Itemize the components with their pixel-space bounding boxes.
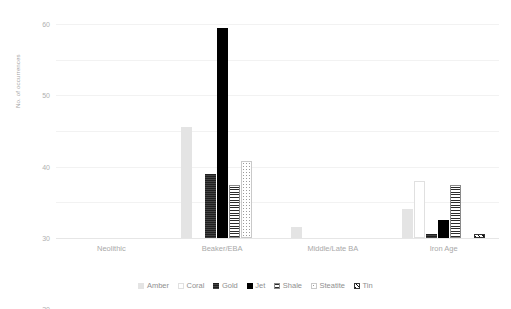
legend-item-jet[interactable]: Jet (247, 281, 266, 290)
bar-slot-gold (94, 24, 105, 238)
y-axis-title: No. of occurrences (14, 8, 21, 108)
bar-amber-iron-age[interactable] (402, 209, 413, 238)
bar-jet-beaker-eba[interactable] (217, 28, 228, 238)
bar-groups (56, 24, 499, 238)
legend-label: Steatite (320, 281, 345, 290)
bar-slot-amber (70, 24, 81, 238)
legend-swatch-shale-icon (274, 283, 280, 289)
bar-slot-steatite (462, 24, 473, 238)
x-tick-label: Middle/Late BA (278, 244, 389, 253)
bar-group (167, 24, 278, 238)
bar-slot-jet (327, 24, 338, 238)
legend-item-tin[interactable]: Tin (354, 281, 373, 290)
y-tick-label-60: 60 (42, 21, 50, 28)
bar-tin-iron-age[interactable] (474, 234, 485, 238)
plot-area: 0102030405060 (56, 24, 499, 238)
bar-coral-iron-age[interactable] (414, 181, 425, 238)
bar-slot-jet (438, 24, 449, 238)
bar-slot-steatite (130, 24, 141, 238)
x-tick-label: Neolithic (56, 244, 167, 253)
legend-label: Gold (222, 281, 238, 290)
bar-slot-amber (181, 24, 192, 238)
bar-jet-iron-age[interactable] (438, 220, 449, 238)
bar-shale-iron-age[interactable] (450, 185, 461, 239)
gridline-0: 0 (56, 238, 499, 239)
x-tick-label: Iron Age (388, 244, 499, 253)
bar-slot-jet (106, 24, 117, 238)
legend-item-amber[interactable]: Amber (138, 281, 169, 290)
y-tick-label-30: 30 (42, 235, 50, 242)
legend-item-coral[interactable]: Coral (178, 281, 204, 290)
legend-swatch-gold-icon (213, 283, 219, 289)
bar-chart: No. of occurrences 0102030405060 Neolith… (0, 0, 511, 309)
legend-item-steatite[interactable]: Steatite (311, 281, 345, 290)
bar-slot-shale (118, 24, 129, 238)
bar-slot-tin (363, 24, 374, 238)
bar-slot-tin (142, 24, 153, 238)
chart-legend: AmberCoralGoldJetShaleSteatiteTin (0, 281, 511, 290)
bar-slot-tin (253, 24, 264, 238)
legend-label: Amber (147, 281, 169, 290)
bar-slot-shale (229, 24, 240, 238)
x-axis-labels: NeolithicBeaker/EBAMiddle/Late BAIron Ag… (56, 244, 499, 253)
bar-slot-tin (474, 24, 485, 238)
legend-swatch-steatite-icon (311, 283, 317, 289)
bar-slot-shale (450, 24, 461, 238)
bar-slot-coral (414, 24, 425, 238)
bar-slot-amber (402, 24, 413, 238)
bar-shale-beaker-eba[interactable] (229, 185, 240, 239)
y-tick-label-50: 50 (42, 92, 50, 99)
bar-group (278, 24, 389, 238)
legend-label: Coral (187, 281, 205, 290)
legend-item-shale[interactable]: Shale (274, 281, 302, 290)
bar-slot-coral (303, 24, 314, 238)
bar-slot-gold (426, 24, 437, 238)
bar-slots (167, 24, 278, 238)
legend-swatch-amber-icon (138, 283, 144, 289)
bar-slot-amber (291, 24, 302, 238)
legend-swatch-tin-icon (354, 283, 360, 289)
x-tick-label: Beaker/EBA (167, 244, 278, 253)
bar-slots (56, 24, 167, 238)
legend-label: Jet (255, 281, 265, 290)
legend-swatch-jet-icon (247, 283, 253, 289)
bar-slot-coral (82, 24, 93, 238)
bar-slot-gold (315, 24, 326, 238)
y-tick-label-40: 40 (42, 163, 50, 170)
bar-slot-steatite (241, 24, 252, 238)
bar-slots (278, 24, 389, 238)
bar-steatite-beaker-eba[interactable] (241, 161, 252, 238)
legend-item-gold[interactable]: Gold (213, 281, 237, 290)
bar-slot-shale (339, 24, 350, 238)
bar-slot-gold (205, 24, 216, 238)
legend-swatch-coral-icon (178, 283, 184, 289)
bar-slot-coral (193, 24, 204, 238)
bar-slots (388, 24, 499, 238)
bar-group (388, 24, 499, 238)
legend-label: Tin (362, 281, 372, 290)
bar-group (56, 24, 167, 238)
bar-gold-beaker-eba[interactable] (205, 174, 216, 238)
bar-slot-steatite (351, 24, 362, 238)
bar-amber-middle-late-ba[interactable] (291, 227, 302, 238)
bar-amber-beaker-eba[interactable] (181, 127, 192, 238)
bar-gold-iron-age[interactable] (426, 234, 437, 238)
bar-slot-jet (217, 24, 228, 238)
legend-label: Shale (283, 281, 302, 290)
